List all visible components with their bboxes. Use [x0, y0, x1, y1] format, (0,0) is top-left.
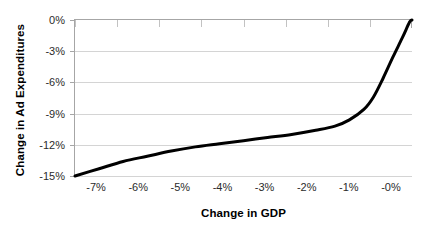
x-tick-mark [201, 20, 202, 27]
x-tick-mark [159, 20, 160, 27]
gridline [75, 51, 412, 52]
x-tick-label: -4% [201, 181, 243, 194]
x-tick-label: -0% [370, 181, 412, 194]
gridline [75, 145, 412, 146]
x-tick-label: -2% [286, 181, 328, 194]
y-tick-mark [70, 82, 75, 83]
x-tick-label: -3% [244, 181, 286, 194]
x-tick-label: -7% [75, 181, 117, 194]
gridline [75, 114, 412, 115]
x-tick-mark [244, 20, 245, 27]
data-series-line [0, 0, 435, 234]
y-tick-label: -6% [5, 76, 65, 89]
x-tick-mark [328, 20, 329, 27]
chart-container: Change in Ad Expenditures 0%-3%-6%-9%-12… [0, 0, 435, 234]
y-tick-mark [70, 145, 75, 146]
line-path [75, 20, 412, 176]
x-tick-mark [286, 20, 287, 27]
y-tick-label: -12% [5, 139, 65, 152]
y-axis-title: Change in Ad Expenditures [11, 10, 29, 190]
gridline [75, 82, 412, 83]
x-tick-mark [117, 20, 118, 27]
x-axis-title: Change in GDP [75, 205, 412, 221]
y-tick-mark [70, 176, 75, 177]
x-tick-mark [370, 20, 371, 27]
y-tick-mark [70, 51, 75, 52]
y-axis-line [74, 19, 75, 177]
x-tick-label: -1% [328, 181, 370, 194]
x-tick-label: -6% [117, 181, 159, 194]
y-tick-label: 0% [5, 14, 65, 27]
x-tick-mark [75, 20, 76, 27]
x-tick-label: -5% [159, 181, 201, 194]
gridline [75, 176, 412, 177]
y-tick-label: -3% [5, 45, 65, 58]
y-tick-label: -9% [5, 108, 65, 121]
y-tick-label: -15% [5, 170, 65, 183]
plot-right-corner-border [411, 19, 412, 28]
y-tick-mark [70, 114, 75, 115]
